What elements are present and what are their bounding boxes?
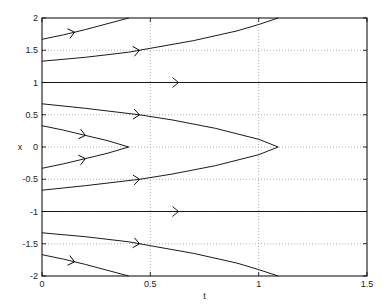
y-tick-labels: -2-1.5-1-0.500.511.52: [22, 13, 38, 281]
x-tick-label: 1: [256, 279, 261, 289]
y-axis-label: x: [18, 142, 23, 152]
x-tick-label: 0.5: [144, 279, 157, 289]
trajectory-line: [42, 104, 278, 147]
x-tick-label: 0: [39, 279, 44, 289]
trajectory-line: [42, 126, 129, 147]
y-tick-label: -2: [30, 271, 38, 281]
trajectory-line: [42, 18, 278, 61]
y-tick-label: 1.5: [25, 45, 38, 55]
y-tick-label: 0: [33, 142, 38, 152]
trajectory-line: [42, 233, 278, 276]
y-tick-label: 2: [33, 13, 38, 23]
trajectory-line: [42, 147, 129, 168]
phase-trajectory-chart: 00.511.5 -2-1.5-1-0.500.511.52 t x: [0, 0, 392, 308]
y-tick-label: 0.5: [25, 110, 38, 120]
x-axis-label: t: [203, 291, 206, 301]
y-tick-label: -1.5: [22, 239, 38, 249]
y-tick-label: -0.5: [22, 174, 38, 184]
y-tick-label: 1: [33, 78, 38, 88]
trajectory-line: [42, 147, 278, 190]
y-tick-label: -1: [30, 207, 38, 217]
x-tick-labels: 00.511.5: [39, 279, 373, 289]
trajectory-line: [42, 255, 129, 276]
trajectory-line: [42, 18, 129, 39]
x-tick-label: 1.5: [361, 279, 374, 289]
